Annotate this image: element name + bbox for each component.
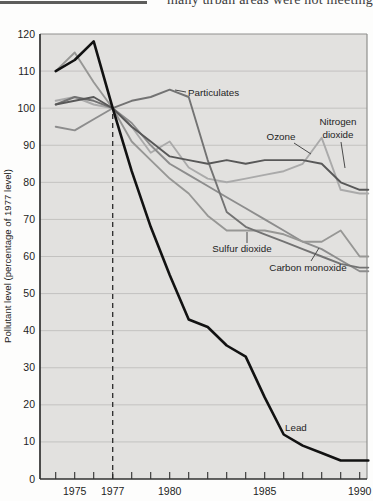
y-tick-label-50: 50 xyxy=(23,287,35,299)
y-tick-label-90: 90 xyxy=(23,139,35,151)
y-tick-label-70: 70 xyxy=(23,213,35,225)
series-label-lead: Lead xyxy=(285,422,307,433)
pollution-trends-chart: 1975197719801985199001020304050607080901… xyxy=(0,0,373,501)
x-tick-label-1977: 1977 xyxy=(101,485,125,497)
y-tick-label-60: 60 xyxy=(23,250,35,262)
y-tick-label-40: 40 xyxy=(23,324,35,336)
y-axis-title: Pollutant level (percentage of 1977 leve… xyxy=(2,169,13,343)
y-tick-label-30: 30 xyxy=(23,361,35,373)
x-tick-label-1990: 1990 xyxy=(348,485,372,497)
series-label-particulates: Particulates xyxy=(188,87,239,98)
x-tick-label-1975: 1975 xyxy=(63,485,87,497)
y-tick-label-20: 20 xyxy=(23,398,35,410)
chart-canvas: 1975197719801985199001020304050607080901… xyxy=(0,0,373,501)
series-label-sulfur-dioxide: Sulfur dioxide xyxy=(212,243,272,254)
y-tick-label-0: 0 xyxy=(29,473,35,485)
x-tick-label-1985: 1985 xyxy=(253,485,277,497)
y-tick-label-10: 10 xyxy=(23,435,35,447)
series-label-ozone: Ozone xyxy=(267,131,296,142)
x-tick-label-1980: 1980 xyxy=(158,485,182,497)
textbook-page: { "page": { "top_fragment_text": "many u… xyxy=(0,0,373,501)
y-tick-label-80: 80 xyxy=(23,176,35,188)
y-tick-label-100: 100 xyxy=(17,102,35,114)
series-label-carbon-monoxide: Carbon monoxide xyxy=(269,262,347,273)
y-tick-label-110: 110 xyxy=(18,65,35,77)
y-tick-label-120: 120 xyxy=(17,28,35,40)
